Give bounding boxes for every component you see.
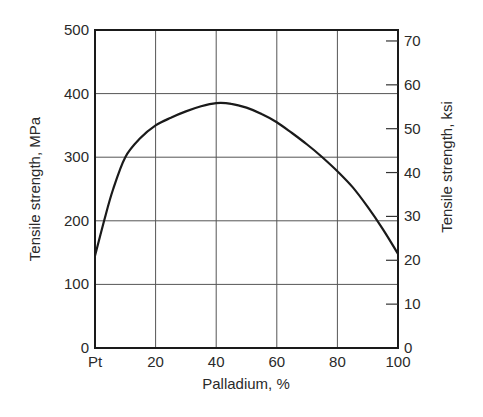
y-tick-label: 0 xyxy=(81,339,89,356)
x-tick-label: Pt xyxy=(88,353,103,370)
right-y-tick-label: 70 xyxy=(404,32,421,49)
y-axis-tick-labels: 0100200300400500 xyxy=(64,21,89,356)
right-y-tick-label: 40 xyxy=(404,164,421,181)
y-axis-title: Tensile strength, MPa xyxy=(26,116,43,261)
right-y-tick-label: 20 xyxy=(404,251,421,268)
strength-curve xyxy=(95,103,398,256)
x-tick-label: 80 xyxy=(329,353,346,370)
x-tick-label: 40 xyxy=(208,353,225,370)
right-y-tick-label: 50 xyxy=(404,120,421,137)
right-y-tick-label: 30 xyxy=(404,207,421,224)
y-tick-label: 500 xyxy=(64,21,89,38)
x-axis-title: Palladium, % xyxy=(202,375,290,392)
plot-frame xyxy=(95,30,398,348)
y-tick-label: 100 xyxy=(64,275,89,292)
y-tick-label: 200 xyxy=(64,212,89,229)
right-y-tick-label: 10 xyxy=(404,295,421,312)
y-tick-label: 300 xyxy=(64,148,89,165)
right-y-axis-title: Tensile strength, ksi xyxy=(438,101,455,233)
right-y-axis-tick-labels: 010203040506070 xyxy=(404,32,421,356)
grid-lines xyxy=(95,30,398,348)
y-tick-label: 400 xyxy=(64,85,89,102)
right-y-tick-label: 60 xyxy=(404,76,421,93)
right-y-tick-label: 0 xyxy=(404,339,412,356)
x-axis-tick-labels: Pt20406080100 xyxy=(88,353,411,370)
x-tick-label: 60 xyxy=(268,353,285,370)
x-tick-label: 20 xyxy=(147,353,164,370)
right-axis-ticks xyxy=(386,41,398,304)
tensile-strength-chart: Pt20406080100 0100200300400500 010203040… xyxy=(0,0,483,417)
